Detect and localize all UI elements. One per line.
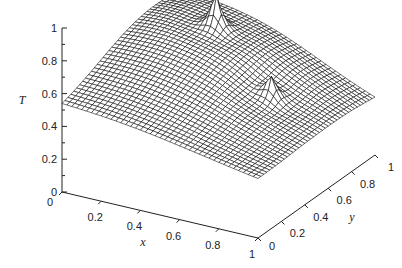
- x-tick: [137, 210, 140, 213]
- y-tick: [328, 188, 331, 191]
- y-tick: [305, 205, 308, 208]
- y-tick-label: 0.4: [313, 211, 328, 223]
- x-tick-label: 0.2: [88, 211, 103, 223]
- z-tick-label: 0.8: [42, 55, 57, 67]
- x-tick-label: 0.6: [166, 230, 181, 242]
- surface-mesh: [62, 0, 375, 178]
- z-tick-label: 1: [51, 22, 57, 34]
- y-tick: [375, 155, 378, 158]
- z-axis-label: T: [19, 93, 27, 107]
- y-tick-label: 0.6: [337, 194, 352, 206]
- x-tick-label: 0.8: [205, 239, 220, 251]
- x-tick-label: 0.4: [127, 220, 142, 232]
- z-tick-label: 0.4: [42, 120, 57, 132]
- x-tick-label: 0: [47, 196, 53, 208]
- y-axis-line: [258, 155, 375, 238]
- y-tick: [281, 221, 284, 224]
- y-tick: [352, 172, 355, 175]
- y-tick-label: 0.2: [290, 227, 305, 239]
- x-tick-label: 1: [249, 248, 255, 260]
- x-tick: [98, 201, 101, 204]
- y-tick: [258, 238, 261, 241]
- x-tick: [59, 192, 62, 195]
- x-tick: [177, 220, 180, 223]
- x-tick: [255, 238, 258, 241]
- z-tick-label: 0.2: [42, 153, 57, 165]
- y-axis-label: y: [348, 210, 355, 224]
- surface-plot: 00.20.40.60.81T00.20.40.60.81x00.20.40.6…: [0, 0, 402, 268]
- z-tick-label: 0.6: [42, 88, 57, 100]
- x-tick: [216, 229, 219, 232]
- y-tick-label: 0: [269, 240, 275, 252]
- y-tick-label: 0.8: [360, 178, 375, 190]
- x-axis-label: x: [139, 235, 146, 249]
- y-tick-label: 1: [388, 161, 394, 173]
